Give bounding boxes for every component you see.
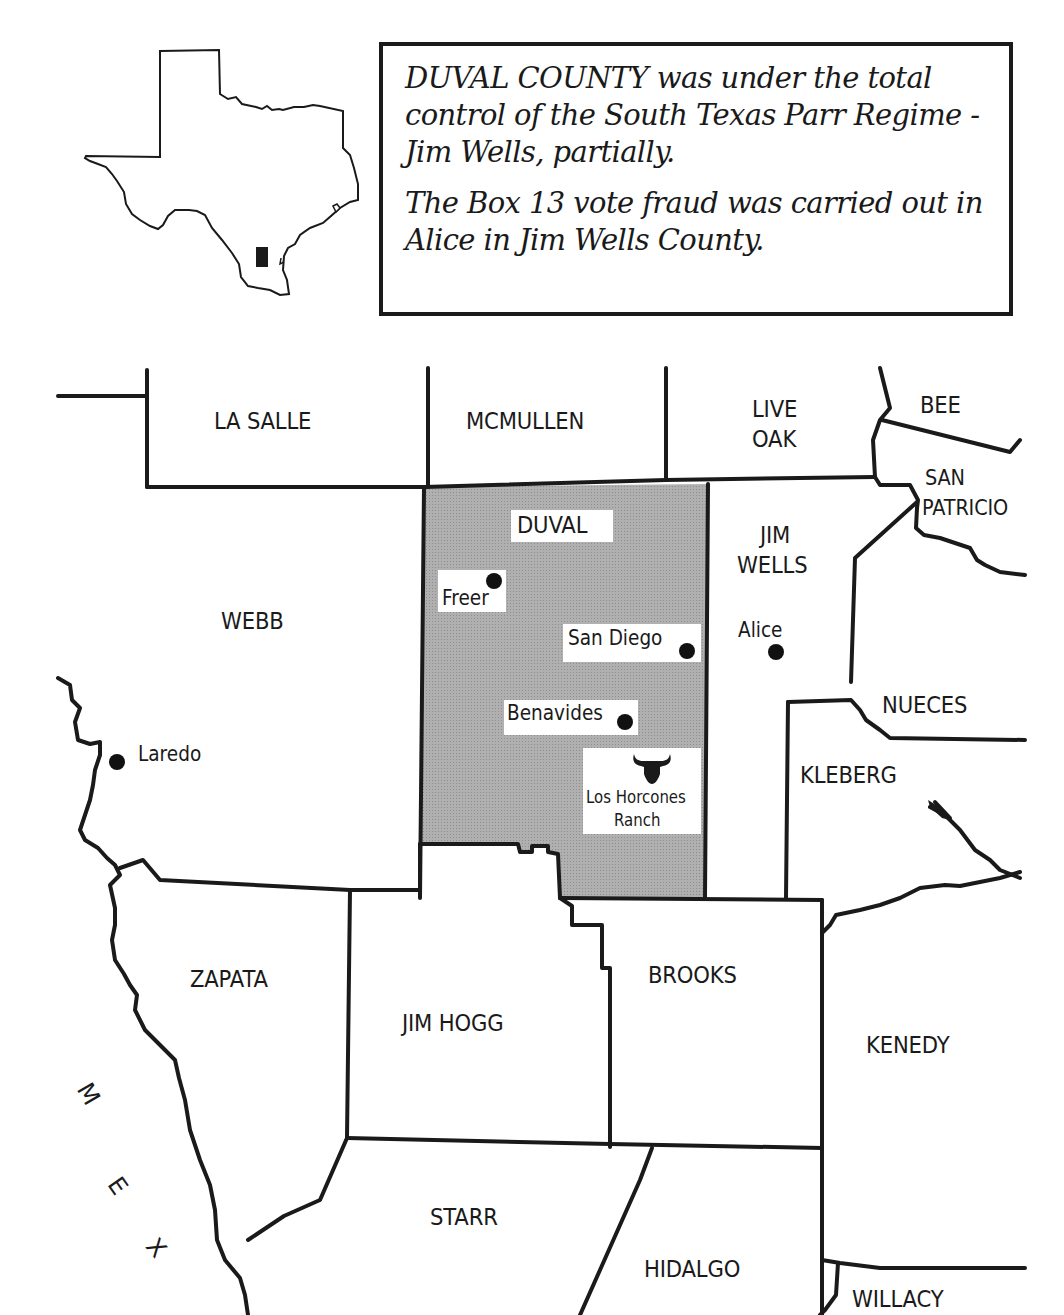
county-label-la-salle: LA SALLE bbox=[214, 408, 311, 434]
city-label-san-diego: San Diego bbox=[568, 626, 662, 650]
county-label-willacy: WILLACY bbox=[852, 1286, 943, 1312]
bull-head-icon bbox=[630, 752, 674, 786]
county-label-jim-wells-2: WELLS bbox=[737, 552, 807, 578]
city-dot-laredo bbox=[109, 754, 125, 770]
duval-county-shape bbox=[422, 484, 708, 898]
baffin-bay bbox=[928, 800, 950, 820]
city-dot-alice bbox=[768, 644, 784, 660]
city-dot-san-diego bbox=[679, 643, 695, 659]
county-label-brooks: BROOKS bbox=[648, 962, 737, 988]
county-label-mcmullen: MCMULLEN bbox=[466, 408, 584, 434]
county-boundaries bbox=[0, 360, 1064, 1315]
county-label-hidalgo: HIDALGO bbox=[644, 1256, 740, 1282]
county-label-duval: DUVAL bbox=[517, 512, 587, 538]
city-dot-benavides bbox=[617, 714, 633, 730]
texas-border bbox=[85, 50, 358, 295]
county-label-nueces: NUECES bbox=[882, 692, 967, 718]
county-label-kenedy: KENEDY bbox=[866, 1032, 949, 1058]
county-label-jim-wells-1: JIM bbox=[760, 522, 790, 548]
texas-outline bbox=[0, 0, 380, 310]
county-label-jim-hogg: JIM HOGG bbox=[402, 1010, 503, 1036]
county-label-live-oak-1: LIVE bbox=[752, 396, 797, 422]
info-callout-box: DUVAL COUNTY was under the total control… bbox=[379, 42, 1013, 316]
county-label-san-patricio-2: PATRICIO bbox=[922, 496, 1008, 520]
city-label-freer: Freer bbox=[442, 586, 489, 610]
city-label-benavides: Benavides bbox=[507, 701, 603, 725]
south-texas-county-map: LA SALLE MCMULLEN LIVE OAK BEE SAN PATRI… bbox=[0, 360, 1064, 1315]
county-label-san-patricio-1: SAN bbox=[925, 466, 965, 490]
county-label-kleberg: KLEBERG bbox=[800, 762, 897, 788]
county-label-webb: WEBB bbox=[221, 608, 284, 634]
city-label-laredo: Laredo bbox=[138, 742, 201, 766]
callout-paragraph-1: DUVAL COUNTY was under the total control… bbox=[405, 60, 989, 171]
ranch-label-line2: Ranch bbox=[614, 810, 660, 830]
county-label-zapata: ZAPATA bbox=[190, 966, 268, 992]
texas-inset-map bbox=[0, 0, 380, 310]
ranch-label-line1: Los Horcones bbox=[586, 787, 686, 807]
county-label-starr: STARR bbox=[430, 1204, 498, 1230]
city-label-alice: Alice bbox=[738, 618, 782, 642]
county-label-bee: BEE bbox=[920, 392, 961, 418]
county-label-live-oak-2: OAK bbox=[752, 426, 796, 452]
duval-location-marker bbox=[256, 247, 268, 267]
callout-paragraph-2: The Box 13 vote fraud was carried out in… bbox=[405, 185, 989, 259]
